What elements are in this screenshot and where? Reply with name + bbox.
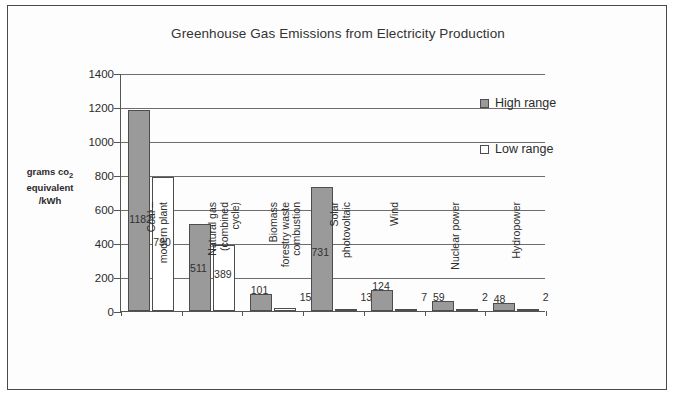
x-axis-tick-mark — [485, 311, 486, 316]
x-axis-tick-mark — [121, 311, 122, 316]
y-axis-tick-label: 0 — [70, 306, 114, 318]
bar-value-high-range: 124 — [372, 280, 390, 292]
x-axis-category-label: Wind — [389, 202, 401, 322]
legend-swatch-low-range-icon — [480, 145, 489, 154]
y-axis-tick-label: 800 — [70, 170, 114, 182]
bar-value-high-range: 101 — [251, 284, 269, 296]
x-axis-tick-mark — [546, 311, 547, 316]
x-axis-tick-mark — [303, 311, 304, 316]
bar-value-high-range: 731 — [312, 246, 330, 258]
y-axis-tick-label: 1000 — [70, 136, 114, 148]
x-axis-category-label: Biomass forestry waste combustion — [268, 202, 303, 322]
chart-title: Greenhouse Gas Emissions from Electricit… — [0, 26, 676, 41]
bar-value-low-range: 2 — [482, 291, 488, 303]
bar-value-high-range: 511 — [190, 262, 207, 274]
y-axis-tick-label: 1400 — [70, 68, 114, 80]
x-axis-tick-mark — [182, 311, 183, 316]
legend-item-high-range: High range — [480, 92, 600, 114]
gridline — [121, 74, 545, 75]
y-axis-tick-label: 400 — [70, 238, 114, 250]
x-axis-category-label: Nuclear power — [450, 202, 462, 322]
x-axis-category-label: Coal – modern plant — [146, 202, 169, 322]
y-axis-title-line-2: equivalent — [27, 182, 74, 193]
legend-swatch-high-range-icon — [480, 99, 489, 108]
bar-value-low-range: 7 — [421, 291, 427, 303]
bar-value-high-range: 59 — [433, 291, 445, 303]
y-axis-tick-mark — [114, 312, 121, 313]
y-axis-title-line-1: grams co — [27, 166, 69, 177]
legend-label-high-range: High range — [495, 96, 556, 110]
x-axis-tick-mark — [242, 311, 243, 316]
y-axis-tick-label: 600 — [70, 204, 114, 216]
x-axis-tick-mark — [425, 311, 426, 316]
chart-legend: High range Low range — [480, 92, 600, 184]
legend-label-low-range: Low range — [495, 142, 553, 156]
y-axis-tick-label: 200 — [70, 272, 114, 284]
chart-screenshot: Greenhouse Gas Emissions from Electricit… — [0, 0, 676, 401]
x-axis-category-label: Natural gas (combined cycle) — [207, 202, 242, 322]
legend-item-low-range: Low range — [480, 138, 600, 160]
bar-value-high-range: 48 — [494, 293, 506, 305]
y-axis-tick-label: 1200 — [70, 102, 114, 114]
x-axis-category-label: Solar photovoltaic — [329, 202, 352, 322]
x-axis-category-label: Hydropower — [511, 202, 523, 322]
bar-value-low-range: 2 — [543, 291, 549, 303]
x-axis-tick-mark — [364, 311, 365, 316]
y-axis-title-line-3: /kWh — [39, 195, 62, 206]
